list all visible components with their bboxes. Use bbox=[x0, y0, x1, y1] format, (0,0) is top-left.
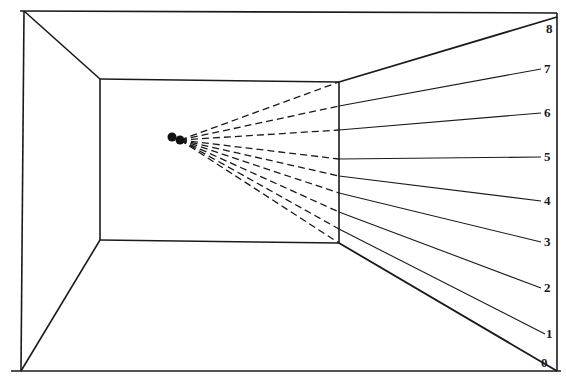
distance-label-3: 3 bbox=[544, 235, 551, 248]
dashed-sightline-4 bbox=[180, 140, 339, 176]
solid-sightlines bbox=[339, 17, 557, 371]
left-ceiling-diagonal bbox=[24, 11, 100, 79]
solid-sightline-5 bbox=[339, 157, 541, 159]
dashed-sightline-2 bbox=[180, 140, 339, 212]
solid-sightline-4 bbox=[339, 176, 541, 201]
left-floor-diagonal bbox=[21, 240, 100, 371]
solid-sightline-6 bbox=[339, 113, 541, 130]
observer-eye-icon bbox=[168, 133, 177, 142]
dashed-sightlines bbox=[180, 82, 339, 243]
perspective-room-diagram bbox=[0, 0, 566, 382]
solid-sightline-7 bbox=[339, 69, 541, 106]
distance-label-0: 0 bbox=[541, 356, 548, 369]
room-outline bbox=[11, 11, 561, 371]
distance-label-6: 6 bbox=[544, 106, 551, 119]
left-wall-edge bbox=[21, 11, 24, 371]
ceiling-edge bbox=[20, 11, 557, 13]
observer-eye-icon bbox=[176, 136, 185, 145]
distance-label-5: 5 bbox=[544, 150, 551, 163]
back-wall-bottom bbox=[100, 240, 339, 243]
solid-sightline-2 bbox=[339, 212, 541, 288]
distance-label-8: 8 bbox=[546, 22, 553, 35]
distance-label-1: 1 bbox=[546, 327, 553, 340]
dashed-sightline-1 bbox=[180, 140, 339, 229]
solid-sightline-1 bbox=[339, 229, 545, 334]
solid-sightline-0 bbox=[339, 243, 557, 371]
observer-eyes bbox=[168, 133, 185, 145]
back-wall-top bbox=[100, 79, 339, 82]
distance-label-2: 2 bbox=[544, 281, 551, 294]
dashed-sightline-0 bbox=[180, 140, 339, 243]
distance-label-4: 4 bbox=[544, 194, 551, 207]
distance-label-7: 7 bbox=[544, 62, 551, 75]
solid-sightline-3 bbox=[339, 193, 541, 242]
